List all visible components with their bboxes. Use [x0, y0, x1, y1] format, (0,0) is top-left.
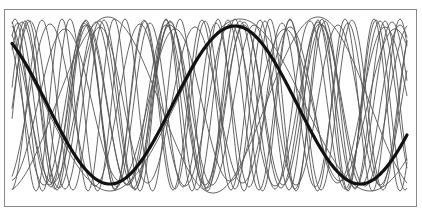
sine-wave-plot: [0, 0, 422, 215]
